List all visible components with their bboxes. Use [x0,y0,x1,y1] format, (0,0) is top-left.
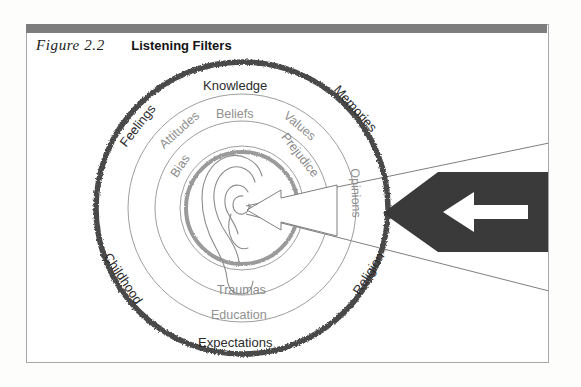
ring-label-expectations: Expectations [198,335,272,350]
listening-filters-diagram: Knowledge Memories Religion Expectations… [0,0,581,387]
ring-label-beliefs: Beliefs [216,107,254,121]
ear-icon [202,156,262,294]
ear-entry-arrow [247,185,337,236]
ring-label-traumas: Traumas [217,283,266,297]
ring-label-opinions: Opinions [348,168,364,218]
ring-label-education: Education [211,308,267,322]
diagram-graphics [0,0,581,387]
ring-label-knowledge: Knowledge [203,78,267,93]
figure-page: Figure 2.2 Listening Filters [0,0,581,387]
